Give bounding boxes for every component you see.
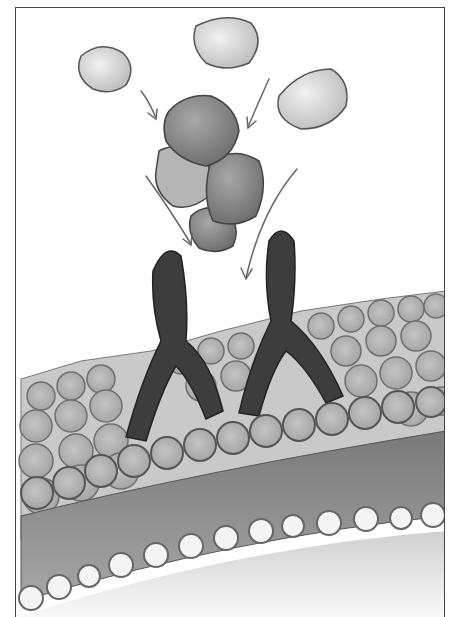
antigen-free-1 [79,47,131,92]
antigen-free-3 [278,69,347,129]
antibody-membrane-illustration [16,8,445,617]
arrow-icon [141,91,157,119]
arrow-icon [247,79,269,128]
illustration-frame [15,7,445,617]
antigen-free-2 [194,18,258,68]
antigen-bound-4 [206,154,263,225]
